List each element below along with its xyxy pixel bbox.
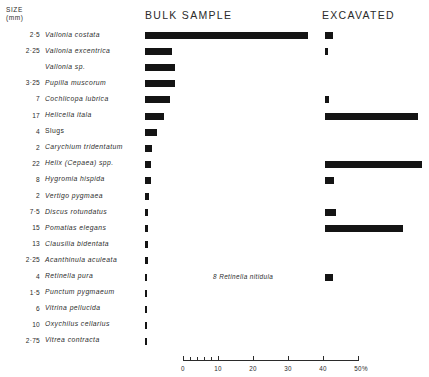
axis-tick-minor: [211, 357, 212, 360]
size-value: 2·25: [2, 256, 40, 263]
axis-tick-major: [288, 356, 289, 360]
excavated-bar: [325, 209, 336, 216]
size-cell: 2·75: [0, 333, 40, 351]
size-value: 15: [2, 224, 40, 231]
bulk-sample-bar: [145, 64, 175, 71]
species-name: Vallonia excentrica: [45, 47, 110, 54]
excavated-bar: [325, 161, 422, 168]
bulk-sample-bar: [145, 80, 175, 87]
species-row: 2·75Vitrea contracta: [0, 333, 429, 351]
species-name: Slugs: [45, 127, 64, 134]
axis-tick-major: [358, 356, 359, 360]
species-name: Helix (Cepaea) spp.: [45, 159, 114, 166]
retinella-nitidula-annotation: 8 Retinella nitidula: [213, 273, 273, 280]
species-name: Vitrea contracta: [45, 336, 100, 343]
species-name: Clausilia bidentata: [45, 240, 109, 247]
excavated-bar: [325, 96, 329, 103]
size-value: 4: [2, 273, 40, 280]
species-name: Punctum pygmaeum: [45, 288, 115, 295]
size-column-header-line2: (mm): [6, 14, 24, 21]
size-value: 13: [2, 240, 40, 247]
bulk-sample-bar: [145, 113, 164, 120]
size-value: 6: [2, 305, 40, 312]
excavated-bar: [325, 225, 403, 232]
axis-tick-major: [253, 356, 254, 360]
excavated-bar: [325, 32, 333, 39]
mollusc-abundance-chart: SIZE (mm) BULK SAMPLE EXCAVATED 2·5Vallo…: [0, 0, 429, 377]
excavated-bar: [325, 113, 418, 120]
bulk-sample-bar: [145, 177, 151, 184]
bulk-sample-bar: [145, 322, 147, 329]
bulk-sample-column-header: BULK SAMPLE: [145, 9, 232, 21]
size-value: 3·25: [2, 79, 40, 86]
species-name: Vitrina pellucida: [45, 304, 101, 311]
size-value: 2: [2, 144, 40, 151]
species-name: Vallonia sp.: [45, 63, 85, 70]
bulk-sample-bar: [145, 96, 170, 103]
bulk-sample-bar: [145, 209, 148, 216]
bulk-sample-bar: [145, 338, 147, 345]
size-column-header-line1: SIZE: [6, 6, 23, 13]
bulk-sample-bar: [145, 241, 148, 248]
percentage-axis: 01020304050 %: [0, 354, 429, 377]
bulk-sample-bar: [145, 193, 149, 200]
bulk-sample-bar: [145, 161, 151, 168]
species-name: Vallonia costata: [45, 31, 100, 38]
axis-tick-minor: [197, 357, 198, 360]
species-name: Pomatias elegans: [45, 224, 106, 231]
size-value: 10: [2, 321, 40, 328]
species-name: Retinella pura: [45, 272, 93, 279]
axis-tick-label: 30: [284, 365, 292, 372]
axis-tick-label: 10: [214, 365, 222, 372]
species-name: Discus rotundatus: [45, 208, 107, 215]
axis-tick-label: 40: [319, 365, 327, 372]
species-name: Hygromia hispida: [45, 175, 105, 182]
species-name: Cochlicopa lubrica: [45, 95, 109, 102]
size-value: 7·5: [2, 208, 40, 215]
bulk-sample-bar: [145, 48, 172, 55]
axis-line: [183, 360, 359, 361]
axis-tick-major: [183, 356, 184, 360]
axis-tick-minor: [204, 357, 205, 360]
axis-unit-label: %: [362, 365, 368, 372]
size-value: 2·25: [2, 47, 40, 54]
bulk-sample-bar: [145, 290, 147, 297]
size-value: 2·5: [2, 31, 40, 38]
axis-tick-label: 50: [354, 365, 362, 372]
bulk-sample-bar: [145, 145, 152, 152]
excavated-column-header: EXCAVATED: [322, 9, 395, 21]
axis-tick-major: [218, 356, 219, 360]
size-value: 22: [2, 160, 40, 167]
bulk-sample-bar: [145, 274, 147, 281]
species-name: Vertigo pygmaea: [45, 192, 103, 199]
size-value: 2: [2, 192, 40, 199]
bulk-sample-bar: [145, 129, 157, 136]
excavated-bar: [325, 177, 334, 184]
excavated-bar: [325, 274, 333, 281]
excavated-bar: [325, 48, 328, 55]
axis-tick-label: 20: [249, 365, 257, 372]
bulk-sample-bar: [145, 257, 148, 264]
species-name: Pupilla muscorum: [45, 79, 106, 86]
size-value: 1·5: [2, 289, 40, 296]
bulk-sample-bar: [145, 225, 148, 232]
size-value: 17: [2, 112, 40, 119]
bulk-sample-bar: [145, 306, 147, 313]
species-name: Acanthinula aculeata: [45, 256, 117, 263]
size-value: 7: [2, 95, 40, 102]
size-value: 2·75: [2, 337, 40, 344]
species-name: Helicella itala: [45, 111, 92, 118]
axis-tick-label: 0: [181, 365, 185, 372]
bulk-sample-bar: [145, 32, 308, 39]
axis-tick-major: [323, 356, 324, 360]
size-value: 4: [2, 128, 40, 135]
size-value: 8: [2, 176, 40, 183]
axis-tick-minor: [190, 357, 191, 360]
species-name: Carychium tridentatum: [45, 143, 123, 150]
species-name: Oxychilus cellarius: [45, 320, 110, 327]
